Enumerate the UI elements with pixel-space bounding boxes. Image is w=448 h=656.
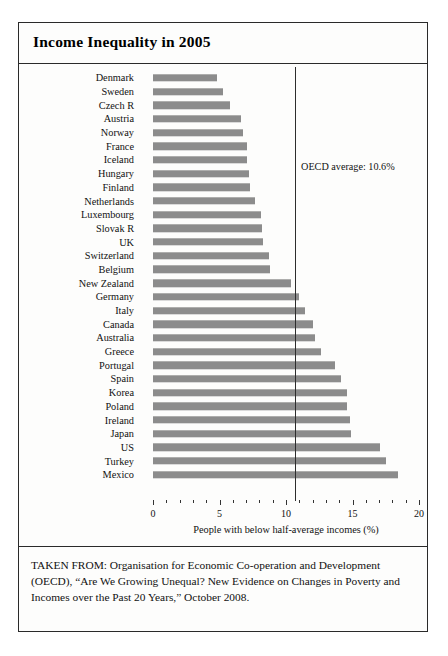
bar (153, 444, 380, 451)
source-note: TAKEN FROM: Organisation for Economic Co… (31, 557, 415, 606)
chart-row: Sweden (19, 85, 427, 99)
bar-track (153, 345, 419, 359)
chart-row: Turkey (19, 454, 427, 468)
oecd-average-label: OECD average: 10.6% (301, 161, 395, 172)
chart-row: Belgium (19, 263, 427, 277)
bar-track (153, 139, 419, 153)
category-label: Czech R (19, 100, 134, 111)
chart-plot-area: DenmarkSwedenCzech RAustriaNorwayFranceI… (19, 63, 427, 543)
chart-row: Italy (19, 304, 427, 318)
x-tick-major (286, 500, 287, 505)
bar (153, 88, 223, 95)
bar-track (153, 386, 419, 400)
x-tick-minor (339, 500, 340, 503)
chart-row: Poland (19, 400, 427, 414)
category-label: Greece (19, 346, 134, 357)
category-label: New Zealand (19, 278, 134, 289)
x-axis: 05101520 People with below half-average … (153, 500, 419, 544)
category-label: Japan (19, 428, 134, 439)
x-axis-title: People with below half-average incomes (… (153, 524, 419, 535)
category-label: Iceland (19, 154, 134, 165)
bar-track (153, 112, 419, 126)
x-tick-label: 5 (217, 508, 222, 519)
x-tick-label: 15 (348, 508, 358, 519)
category-label: Belgium (19, 264, 134, 275)
x-tick-minor (233, 500, 234, 503)
chart-row: Korea (19, 386, 427, 400)
category-label: Portugal (19, 360, 134, 371)
bar-track (153, 126, 419, 140)
chart-row: Germany (19, 290, 427, 304)
bar-track (153, 331, 419, 345)
category-label: US (19, 442, 134, 453)
bar-track (153, 181, 419, 195)
x-tick-minor (406, 500, 407, 503)
bar (153, 143, 247, 150)
bar (153, 321, 313, 328)
category-label: Slovak R (19, 223, 134, 234)
x-tick-minor (180, 500, 181, 503)
chart-row: US (19, 441, 427, 455)
category-label: Korea (19, 387, 134, 398)
x-tick-label: 20 (414, 508, 424, 519)
category-label: Ireland (19, 415, 134, 426)
chart-row: Canada (19, 317, 427, 331)
x-tick-major (419, 500, 420, 505)
bar (153, 266, 270, 273)
category-label: Mexico (19, 469, 134, 480)
chart-row: Czech R (19, 98, 427, 112)
bar (153, 389, 347, 396)
chart-row: Ireland (19, 413, 427, 427)
bar (153, 156, 247, 163)
footer-divider (19, 546, 427, 547)
bar (153, 211, 261, 218)
bar-track (153, 290, 419, 304)
x-tick-minor (259, 500, 260, 503)
x-tick-minor (326, 500, 327, 503)
bar-track (153, 235, 419, 249)
bar (153, 334, 315, 341)
x-tick-minor (166, 500, 167, 503)
bar-track (153, 358, 419, 372)
category-label: Turkey (19, 456, 134, 467)
category-label: Spain (19, 373, 134, 384)
x-tick-label: 0 (151, 508, 156, 519)
bar-track (153, 454, 419, 468)
category-label: UK (19, 237, 134, 248)
chart-row: Norway (19, 126, 427, 140)
x-tick-major (220, 500, 221, 505)
bar-track (153, 208, 419, 222)
bar-rows-container: DenmarkSwedenCzech RAustriaNorwayFranceI… (19, 71, 427, 482)
bar (153, 293, 299, 300)
bar (153, 252, 269, 259)
bar-track (153, 441, 419, 455)
category-label: Australia (19, 332, 134, 343)
bar (153, 375, 341, 382)
category-label: Switzerland (19, 250, 134, 261)
bar-track (153, 427, 419, 441)
x-tick-minor (379, 500, 380, 503)
bar-track (153, 400, 419, 414)
category-label: Italy (19, 305, 134, 316)
chart-row: Mexico (19, 468, 427, 482)
bar-track (153, 249, 419, 263)
bar-track (153, 263, 419, 277)
x-tick-major (153, 500, 154, 505)
chart-row: Japan (19, 427, 427, 441)
bar-track (153, 304, 419, 318)
figure-title: Income Inequality in 2005 (33, 33, 211, 51)
bar-track (153, 222, 419, 236)
x-tick-minor (273, 500, 274, 503)
x-tick-minor (299, 500, 300, 503)
bar (153, 170, 249, 177)
chart-row: Austria (19, 112, 427, 126)
bar (153, 102, 230, 109)
x-tick-minor (246, 500, 247, 503)
bar-track (153, 413, 419, 427)
chart-row: France (19, 139, 427, 153)
chart-row: Luxembourg (19, 208, 427, 222)
bar (153, 225, 262, 232)
bar (153, 279, 291, 286)
figure-container: Income Inequality in 2005 DenmarkSwedenC… (18, 22, 428, 632)
chart-row: Spain (19, 372, 427, 386)
